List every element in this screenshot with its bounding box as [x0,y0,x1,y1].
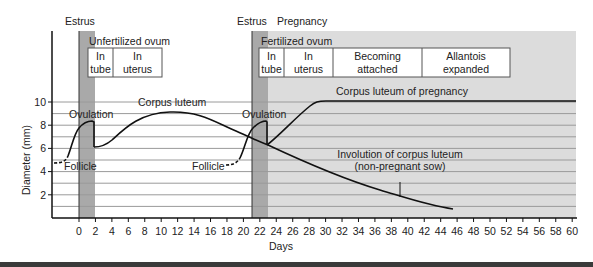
svg-text:6: 6 [40,142,46,154]
x-tick-label: 22 [254,225,266,237]
x-tick-label: 4 [109,225,115,237]
follicle-2-dashed [226,158,240,165]
x-tick-label: 16 [205,225,217,237]
x-tick-label: 30 [320,225,332,237]
svg-text:10: 10 [34,96,46,108]
svg-text:attached: attached [357,63,397,75]
x-tick-label: 58 [550,225,562,237]
bottom-border [0,262,593,267]
estrus-label-2: Estrus [237,15,267,27]
involution-label: Involution of corpus luteum [337,148,463,160]
x-tick-label: 14 [188,225,200,237]
svg-text:tube: tube [261,63,282,75]
x-tick-label: 44 [435,225,447,237]
ovulation-label-2: Ovulation [242,108,287,120]
x-tick-label: 0 [76,225,82,237]
x-tick-label: 20 [238,225,250,237]
svg-text:8: 8 [40,119,46,131]
svg-text:4: 4 [40,165,46,177]
fertilized-ovum-label: Fertilized ovum [261,35,332,47]
x-tick-label: 26 [287,225,299,237]
svg-text:expanded: expanded [443,63,489,75]
corpus-luteum-label: Corpus luteum [138,96,207,108]
pregnancy-label: Pregnancy [277,15,328,27]
x-tick-label: 54 [517,225,529,237]
x-tick-label: 10 [155,225,167,237]
svg-text:tube: tube [90,63,111,75]
y-tick-labels: 2 4 6 8 10 [34,96,46,201]
x-tick-label: 34 [353,225,365,237]
x-tick-labels: 0246810121416182022242628303234363840424… [76,225,578,237]
x-tick-label: 40 [402,225,414,237]
involution-sublabel: (non-pregnant sow) [354,160,445,172]
x-tick-label: 36 [369,225,381,237]
svg-text:2: 2 [40,189,46,201]
x-tick-label: 28 [303,225,315,237]
svg-text:Allantois: Allantois [446,50,486,62]
svg-text:In: In [267,50,276,62]
svg-text:In: In [133,50,142,62]
svg-text:In: In [96,50,105,62]
x-tick-label: 52 [501,225,513,237]
ovulation-label-1: Ovulation [69,108,114,120]
x-tick-label: 18 [221,225,233,237]
unfertilized-ovum-label: Unfertilized ovum [89,35,170,47]
x-tick-label: 12 [172,225,184,237]
x-tick-label: 46 [451,225,463,237]
follicle-label-1: Follicle [64,160,97,172]
corpus-luteum-pregnancy-label: Corpus luteum of pregnancy [336,85,469,97]
svg-text:In: In [304,50,313,62]
x-tick-label: 24 [270,225,282,237]
follicle-label-2: Follicle [192,160,225,172]
x-tick-label: 32 [336,225,348,237]
y-axis-title: Diameter (mm) [20,125,32,195]
svg-text:Becoming: Becoming [354,50,401,62]
x-tick-label: 60 [566,225,578,237]
x-tick-label: 2 [93,225,99,237]
estrus-label-1: Estrus [65,15,95,27]
x-tick-label: 6 [125,225,131,237]
x-axis-title: Days [269,240,293,252]
chart-canvas: 2 4 6 8 10 02468101214161820222426283032… [0,0,593,267]
x-tick-label: 42 [418,225,430,237]
x-tick-label: 38 [386,225,398,237]
x-tick-label: 48 [468,225,480,237]
x-tick-label: 50 [484,225,496,237]
x-tick-label: 8 [142,225,148,237]
svg-text:uterus: uterus [294,63,323,75]
x-tick-label: 56 [533,225,545,237]
svg-text:uterus: uterus [123,63,152,75]
